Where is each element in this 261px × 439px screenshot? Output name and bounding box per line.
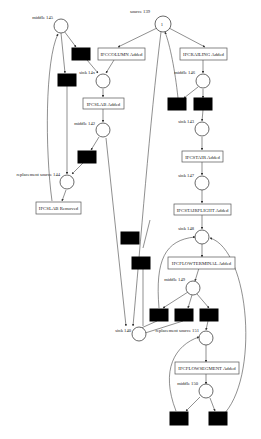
petri-net-diagram: 1 source 139 middle 145 sink 14x middle … bbox=[0, 0, 261, 439]
transition-label: IFCFLOWTERMINAL Added bbox=[172, 261, 232, 266]
place-label: sink 143 bbox=[178, 119, 194, 124]
silent-transition[interactable] bbox=[168, 98, 186, 110]
place-label: sink 14x bbox=[79, 70, 95, 75]
silent-transition[interactable] bbox=[132, 257, 150, 269]
place-sink-143[interactable]: sink 143 bbox=[178, 119, 209, 136]
transition-ifcstair-added[interactable]: IFCSTAIR Added bbox=[182, 151, 223, 162]
place-label: source 139 bbox=[130, 9, 151, 14]
transition-ifcstairflight-added[interactable]: IFCSTAIRFLIGHT Added bbox=[174, 204, 231, 215]
place-label: sink 148 bbox=[178, 226, 194, 231]
place-label: middle 146 bbox=[174, 70, 196, 75]
place-label: middle 145 bbox=[32, 15, 54, 20]
transition-label: IFCSLAB Added bbox=[87, 102, 121, 107]
labeled-transitions: IFCCOLUMN Added IFCRAILING Added IFCSLAB… bbox=[36, 48, 239, 374]
transition-label: IFCSTAIR Added bbox=[185, 155, 220, 160]
place-sink-14x[interactable]: sink 14x bbox=[79, 70, 110, 88]
place-sink-148[interactable]: sink 148 bbox=[178, 226, 209, 244]
place-sink-140[interactable]: sink 140 bbox=[115, 327, 146, 341]
silent-transition[interactable] bbox=[209, 412, 227, 425]
transition-label: IFCFLOWSEGMENT Added bbox=[178, 366, 236, 371]
silent-transition[interactable] bbox=[150, 309, 168, 321]
silent-transition[interactable] bbox=[121, 232, 139, 244]
transition-label: IFCRAILING Added bbox=[183, 52, 225, 57]
place-label: sink 140 bbox=[115, 328, 131, 333]
silent-transition[interactable] bbox=[200, 309, 218, 321]
place-sink-147[interactable]: sink 147 bbox=[178, 173, 209, 190]
silent-transition[interactable] bbox=[175, 309, 193, 321]
transition-ifcflowterminal-added[interactable]: IFCFLOWTERMINAL Added bbox=[168, 257, 235, 269]
place-label: sink 147 bbox=[178, 173, 194, 178]
place-label: middle 142 bbox=[74, 121, 96, 126]
place-label: replacement source 144 bbox=[16, 172, 60, 177]
place-label: middle 149 bbox=[164, 277, 186, 282]
transition-ifcslab-removed[interactable]: IFCSLAB Removed bbox=[36, 202, 81, 214]
transition-ifcrailing-added[interactable]: IFCRAILING Added bbox=[180, 48, 227, 60]
silent-transition[interactable] bbox=[72, 48, 90, 60]
place-source-139[interactable]: 1 source 139 bbox=[130, 9, 171, 32]
transition-ifccolumn-added[interactable]: IFCCOLUMN Added bbox=[98, 48, 145, 60]
silent-transition[interactable] bbox=[58, 74, 76, 86]
edges bbox=[47, 28, 245, 416]
transition-ifcslab-added[interactable]: IFCSLAB Added bbox=[83, 98, 124, 109]
silent-transition[interactable] bbox=[170, 412, 188, 425]
place-label: middle 150 bbox=[177, 381, 199, 386]
place-middle-145[interactable]: middle 145 bbox=[32, 15, 68, 33]
silent-transition[interactable] bbox=[194, 98, 212, 110]
place-middle-146[interactable]: middle 146 bbox=[174, 70, 210, 88]
transition-ifcflowsegment-added[interactable]: IFCFLOWSEGMENT Added bbox=[175, 362, 239, 374]
place-replacement-source-144[interactable]: replacement source 144 bbox=[16, 172, 74, 189]
transition-label: IFCCOLUMN Added bbox=[101, 52, 144, 57]
place-middle-149[interactable]: middle 149 bbox=[164, 277, 200, 295]
silent-transition[interactable] bbox=[78, 151, 96, 163]
place-middle-142[interactable]: middle 142 bbox=[74, 121, 110, 137]
transition-label: IFCSLAB Removed bbox=[39, 206, 79, 211]
place-middle-150[interactable]: middle 150 bbox=[177, 381, 213, 398]
place-label: replacement source 151 bbox=[155, 328, 199, 333]
transition-label: IFCSTAIRFLIGHT Added bbox=[177, 208, 229, 213]
place-replacement-source-151[interactable]: replacement source 151 bbox=[155, 328, 213, 345]
